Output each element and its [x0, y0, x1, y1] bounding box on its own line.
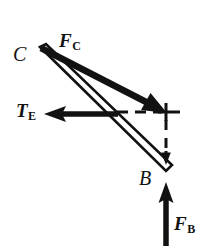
joint-label-b: B — [139, 168, 151, 188]
force-vector-fb — [159, 182, 174, 246]
force-label-fb-subscript: B — [187, 222, 195, 236]
force-label-fc-symbol: F — [59, 30, 72, 51]
force-label-fb-symbol: F — [174, 213, 187, 234]
diagram-canvas — [0, 0, 206, 248]
joint-label-c: C — [13, 44, 26, 64]
force-label-fb: FB — [174, 214, 195, 235]
force-label-fc-subscript: C — [72, 39, 81, 53]
force-label-te-subscript: E — [28, 109, 36, 123]
free-body-diagram: C FC TE B FB — [0, 0, 206, 248]
joint-label-c-text: C — [13, 43, 26, 65]
joint-label-b-text: B — [139, 167, 151, 189]
force-label-fc: FC — [59, 31, 81, 52]
force-label-te: TE — [16, 101, 36, 122]
force-label-te-symbol: T — [16, 100, 28, 121]
